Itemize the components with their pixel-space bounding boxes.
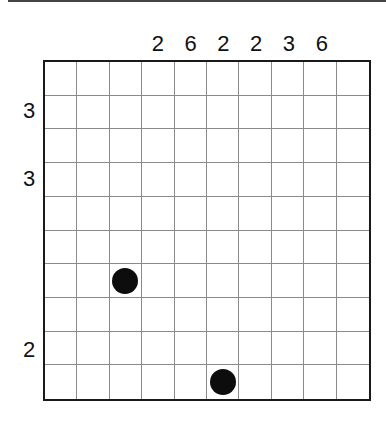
grid-cell-r3-c1[interactable]	[77, 163, 109, 197]
grid-cell-r9-c2[interactable]	[110, 365, 142, 399]
grid-cell-r5-c5[interactable]	[207, 231, 239, 265]
grid-cell-r2-c0[interactable]	[45, 129, 77, 163]
grid-cell-r6-c8[interactable]	[304, 264, 336, 298]
grid-cell-r8-c1[interactable]	[77, 332, 109, 366]
grid-cell-r4-c4[interactable]	[175, 197, 207, 231]
grid-cell-r6-c9[interactable]	[337, 264, 369, 298]
grid-cell-r8-c0[interactable]	[45, 332, 77, 366]
grid-cell-r3-c4[interactable]	[175, 163, 207, 197]
grid-cell-r9-c0[interactable]	[45, 365, 77, 399]
grid-cell-r2-c3[interactable]	[142, 129, 174, 163]
grid-cell-r6-c7[interactable]	[272, 264, 304, 298]
grid-cell-r6-c3[interactable]	[142, 264, 174, 298]
grid-cell-r3-c8[interactable]	[304, 163, 336, 197]
grid-cell-r5-c2[interactable]	[110, 231, 142, 265]
grid-cell-r8-c9[interactable]	[337, 332, 369, 366]
grid-cell-r8-c7[interactable]	[272, 332, 304, 366]
grid-cell-r1-c3[interactable]	[142, 96, 174, 130]
grid-cell-r2-c2[interactable]	[110, 129, 142, 163]
grid-cell-r4-c1[interactable]	[77, 197, 109, 231]
grid-cell-r3-c0[interactable]	[45, 163, 77, 197]
grid-cell-r8-c2[interactable]	[110, 332, 142, 366]
grid-cell-r0-c3[interactable]	[142, 62, 174, 96]
grid-cell-r7-c7[interactable]	[272, 298, 304, 332]
grid-cell-r7-c0[interactable]	[45, 298, 77, 332]
grid-cell-r4-c3[interactable]	[142, 197, 174, 231]
grid-cell-r7-c4[interactable]	[175, 298, 207, 332]
grid-cell-r2-c7[interactable]	[272, 129, 304, 163]
grid-cell-r0-c8[interactable]	[304, 62, 336, 96]
grid-cell-r5-c8[interactable]	[304, 231, 336, 265]
grid-cell-r3-c2[interactable]	[110, 163, 142, 197]
grid-cell-r9-c9[interactable]	[337, 365, 369, 399]
grid-cell-r9-c3[interactable]	[142, 365, 174, 399]
grid-cell-r0-c1[interactable]	[77, 62, 109, 96]
grid-cell-r8-c3[interactable]	[142, 332, 174, 366]
grid-cell-r1-c6[interactable]	[239, 96, 271, 130]
grid-cell-r4-c7[interactable]	[272, 197, 304, 231]
grid-cell-r6-c0[interactable]	[45, 264, 77, 298]
grid-cell-r2-c4[interactable]	[175, 129, 207, 163]
grid-cell-r1-c7[interactable]	[272, 96, 304, 130]
grid-cell-r7-c9[interactable]	[337, 298, 369, 332]
grid-cell-r9-c6[interactable]	[239, 365, 271, 399]
grid-cell-r5-c9[interactable]	[337, 231, 369, 265]
grid-cell-r2-c6[interactable]	[239, 129, 271, 163]
grid-cell-r6-c6[interactable]	[239, 264, 271, 298]
grid-cell-r0-c6[interactable]	[239, 62, 271, 96]
grid-cell-r1-c0[interactable]	[45, 96, 77, 130]
grid-cell-r3-c7[interactable]	[272, 163, 304, 197]
grid-cell-r7-c3[interactable]	[142, 298, 174, 332]
grid-cell-r3-c9[interactable]	[337, 163, 369, 197]
grid-cell-r6-c4[interactable]	[175, 264, 207, 298]
grid-cell-r6-c5[interactable]	[207, 264, 239, 298]
grid-cell-r1-c8[interactable]	[304, 96, 336, 130]
grid-cell-r5-c6[interactable]	[239, 231, 271, 265]
grid-cell-r0-c2[interactable]	[110, 62, 142, 96]
grid-cell-r9-c5[interactable]	[207, 365, 239, 399]
grid-cell-r9-c7[interactable]	[272, 365, 304, 399]
grid-cell-r1-c9[interactable]	[337, 96, 369, 130]
grid-cell-r3-c5[interactable]	[207, 163, 239, 197]
grid-cell-r0-c5[interactable]	[207, 62, 239, 96]
grid-cell-r5-c7[interactable]	[272, 231, 304, 265]
grid-cell-r6-c1[interactable]	[77, 264, 109, 298]
grid-cell-r2-c5[interactable]	[207, 129, 239, 163]
grid-cell-r7-c8[interactable]	[304, 298, 336, 332]
grid-cell-r8-c4[interactable]	[175, 332, 207, 366]
grid-cell-r2-c1[interactable]	[77, 129, 109, 163]
grid-cell-r5-c3[interactable]	[142, 231, 174, 265]
grid-cell-r4-c5[interactable]	[207, 197, 239, 231]
grid-cell-r7-c6[interactable]	[239, 298, 271, 332]
grid-cell-r8-c6[interactable]	[239, 332, 271, 366]
grid-cell-r5-c1[interactable]	[77, 231, 109, 265]
grid-cell-r4-c9[interactable]	[337, 197, 369, 231]
grid-cell-r9-c4[interactable]	[175, 365, 207, 399]
grid-cell-r2-c9[interactable]	[337, 129, 369, 163]
grid-cell-r5-c0[interactable]	[45, 231, 77, 265]
grid-cell-r2-c8[interactable]	[304, 129, 336, 163]
grid-cell-r4-c8[interactable]	[304, 197, 336, 231]
grid-cell-r6-c2[interactable]	[110, 264, 142, 298]
grid-cell-r3-c3[interactable]	[142, 163, 174, 197]
grid-cell-r4-c2[interactable]	[110, 197, 142, 231]
grid-cell-r1-c4[interactable]	[175, 96, 207, 130]
grid-cell-r8-c5[interactable]	[207, 332, 239, 366]
grid-cell-r0-c7[interactable]	[272, 62, 304, 96]
grid-cell-r5-c4[interactable]	[175, 231, 207, 265]
grid-cell-r1-c1[interactable]	[77, 96, 109, 130]
grid-cell-r4-c0[interactable]	[45, 197, 77, 231]
grid-cell-r4-c6[interactable]	[239, 197, 271, 231]
grid-cell-r7-c1[interactable]	[77, 298, 109, 332]
grid-cell-r9-c8[interactable]	[304, 365, 336, 399]
grid-cell-r3-c6[interactable]	[239, 163, 271, 197]
grid-cell-r7-c2[interactable]	[110, 298, 142, 332]
grid-cell-r0-c0[interactable]	[45, 62, 77, 96]
grid-cell-r1-c2[interactable]	[110, 96, 142, 130]
grid-cell-r8-c8[interactable]	[304, 332, 336, 366]
grid-cell-r0-c9[interactable]	[337, 62, 369, 96]
grid-cell-r1-c5[interactable]	[207, 96, 239, 130]
grid-cell-r7-c5[interactable]	[207, 298, 239, 332]
grid-cell-r0-c4[interactable]	[175, 62, 207, 96]
grid-cell-r9-c1[interactable]	[77, 365, 109, 399]
